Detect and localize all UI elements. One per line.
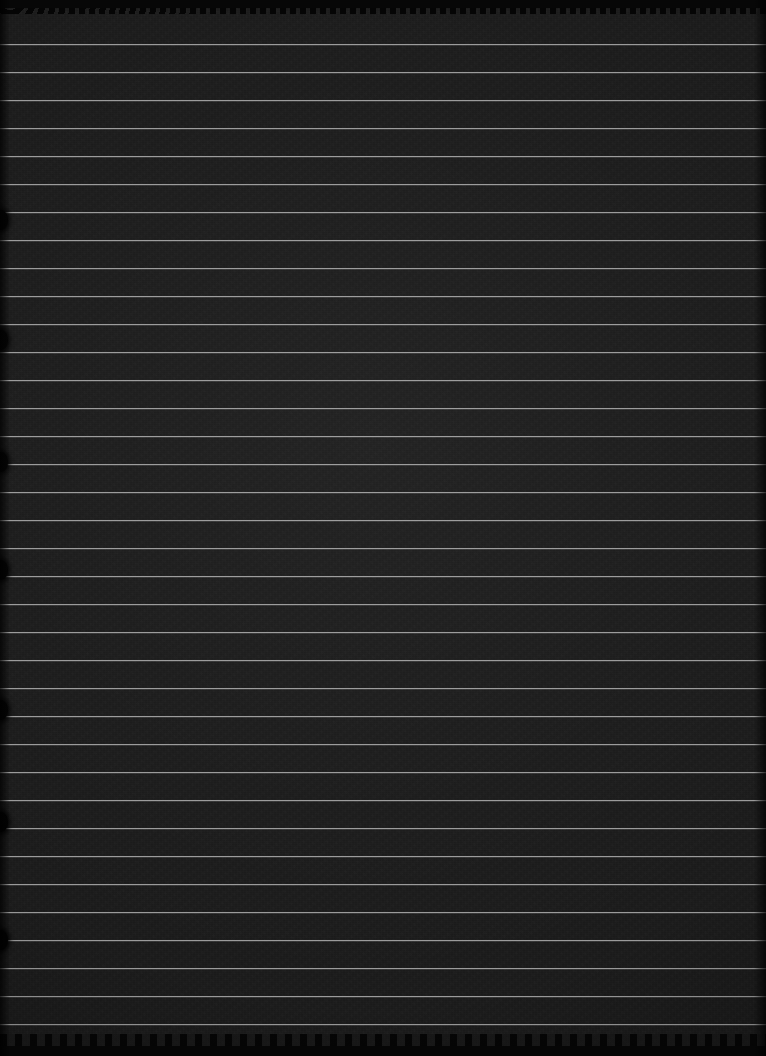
paper-sheet [0,0,766,1056]
rule-line [0,492,766,493]
rule-line [0,968,766,969]
rule-line [0,828,766,829]
rule-line [0,604,766,605]
rule-line [0,800,766,801]
rule-line [0,324,766,325]
rule-line [0,72,766,73]
rule-line [0,520,766,521]
rule-line [0,548,766,549]
rule-line [0,912,766,913]
rule-line [0,464,766,465]
rule-line [0,632,766,633]
rule-line [0,380,766,381]
rule-line [0,184,766,185]
rule-line [0,996,766,997]
rule-line [0,744,766,745]
rule-line [0,408,766,409]
rule-line [0,660,766,661]
rule-line [0,576,766,577]
rule-line [0,296,766,297]
rule-line [0,268,766,269]
rule-line [0,100,766,101]
rule-line [0,716,766,717]
rule-line [0,352,766,353]
rule-line [0,436,766,437]
rule-line [0,856,766,857]
rule-line [0,1024,766,1025]
rule-line [0,44,766,45]
rule-line [0,212,766,213]
rule-line [0,128,766,129]
rule-line [0,940,766,941]
rule-line [0,688,766,689]
screenshot-root: Severely underexposed photograph of a sh… [0,0,766,1056]
rule-line [0,772,766,773]
rule-line [0,240,766,241]
rule-line [0,884,766,885]
rule-line [0,156,766,157]
